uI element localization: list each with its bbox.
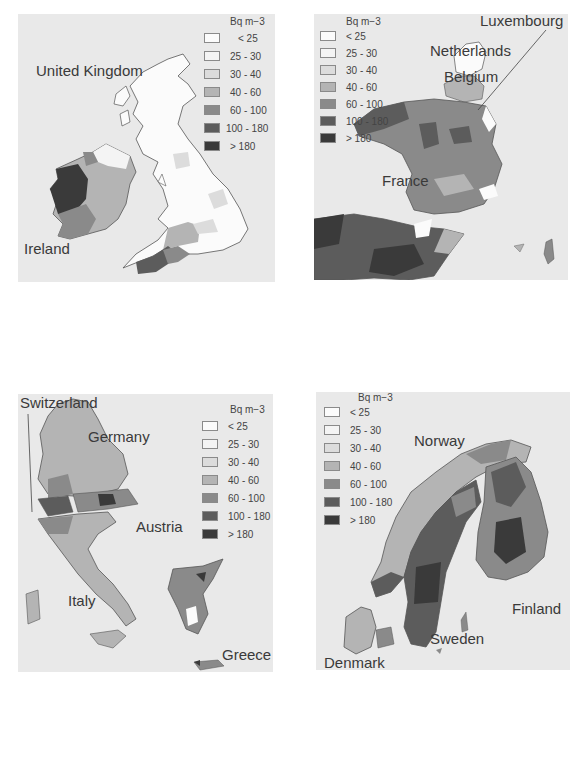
legend-row: 30 - 40: [320, 64, 377, 76]
legend-row: 40 - 60: [204, 86, 261, 98]
legend-swatch: [204, 51, 220, 61]
legend-central: Bq m−3 < 25 25 - 30 30 - 40 40 - 60 60 -…: [202, 404, 272, 534]
legend-label: 100 - 180: [226, 123, 268, 134]
label-italy: Italy: [68, 592, 96, 609]
legend-label: 60 - 100: [228, 493, 265, 504]
legend-unit: Bq m−3: [358, 392, 393, 403]
legend-row: 25 - 30: [324, 424, 381, 436]
legend-row: 25 - 30: [204, 50, 261, 62]
legend-row: 30 - 40: [204, 68, 261, 80]
legend-label: 100 - 180: [228, 511, 270, 522]
legend-label: 60 - 100: [346, 99, 383, 110]
legend-unit: Bq m−3: [230, 16, 265, 27]
legend-row: 60 - 100: [202, 492, 265, 504]
map-panel-nordic: Norway Finland Sweden Denmark Bq m−3 < 2…: [316, 392, 570, 670]
legend-row: 40 - 60: [324, 460, 381, 472]
legend-label: 30 - 40: [230, 69, 261, 80]
legend-swatch: [320, 82, 336, 92]
legend-label: 40 - 60: [350, 461, 381, 472]
legend-row: 100 - 180: [320, 115, 388, 127]
map-panel-central-southern: Switzerland Germany Austria Italy Greece…: [18, 394, 273, 672]
label-germany: Germany: [88, 428, 150, 445]
legend-row: 40 - 60: [202, 474, 259, 486]
legend-row: 60 - 100: [324, 478, 387, 490]
legend-row: 25 - 30: [202, 438, 259, 450]
legend-france: Bq m−3 < 25 25 - 30 30 - 40 40 - 60 60 -…: [320, 16, 400, 136]
legend-unit: Bq m−3: [346, 16, 381, 27]
legend-label: 100 - 180: [346, 116, 388, 127]
denmark-region: [344, 607, 376, 654]
legend-row: < 25: [202, 420, 248, 432]
legend-swatch: [202, 511, 218, 521]
legend-swatch: [320, 31, 336, 41]
legend-swatch: [204, 105, 220, 115]
legend-swatch: [204, 123, 220, 133]
legend-label: > 180: [230, 141, 255, 152]
legend-row: 60 - 100: [204, 104, 267, 116]
label-austria: Austria: [136, 518, 183, 535]
zealand-region: [376, 627, 394, 648]
legend-swatch: [324, 515, 340, 525]
legend-label: 25 - 30: [346, 48, 377, 59]
legend-row: 100 - 180: [324, 496, 392, 508]
legend-row: 100 - 180: [204, 122, 268, 134]
legend-swatch: [324, 461, 340, 471]
legend-label: 30 - 40: [346, 65, 377, 76]
legend-swatch: [320, 116, 336, 126]
legend-swatch: [324, 425, 340, 435]
legend-swatch: [324, 497, 340, 507]
north-england-region: [173, 152, 190, 169]
legend-swatch: [324, 407, 340, 417]
legend-swatch: [202, 421, 218, 431]
legend-label: > 180: [346, 133, 371, 144]
legend-label: 25 - 30: [228, 439, 259, 450]
legend-label: 60 - 100: [350, 479, 387, 490]
legend-swatch: [320, 133, 336, 143]
legend-row: < 25: [204, 32, 258, 44]
legend-swatch: [202, 439, 218, 449]
label-denmark: Denmark: [324, 654, 385, 670]
legend-swatch: [204, 141, 220, 151]
legend-label: 25 - 30: [230, 51, 261, 62]
legend-swatch: [324, 443, 340, 453]
label-finland: Finland: [512, 600, 561, 617]
legend-row: 40 - 60: [320, 81, 377, 93]
label-sweden: Sweden: [430, 630, 484, 647]
legend-row: > 180: [202, 528, 253, 540]
central-sweden-region: [414, 562, 441, 604]
label-united-kingdom: United Kingdom: [36, 62, 143, 79]
legend-label: < 25: [350, 407, 370, 418]
legend-label: 30 - 40: [350, 443, 381, 454]
label-greece: Greece: [222, 646, 271, 663]
legend-row: 60 - 100: [320, 98, 383, 110]
legend-row: 100 - 180: [202, 510, 270, 522]
legend-label: 40 - 60: [228, 475, 259, 486]
legend-label: < 25: [346, 31, 366, 42]
legend-swatch: [202, 475, 218, 485]
legend-label: < 25: [238, 33, 258, 44]
legend-row: < 25: [324, 406, 370, 418]
legend-label: 40 - 60: [346, 82, 377, 93]
label-norway: Norway: [414, 432, 465, 449]
legend-swatch: [204, 33, 220, 43]
legend-row: > 180: [324, 514, 375, 526]
legend-swatch: [320, 99, 336, 109]
legend-row: < 25: [320, 30, 366, 42]
bornholm-region: [436, 648, 442, 654]
label-switzerland: Switzerland: [20, 394, 98, 411]
legend-swatch: [320, 65, 336, 75]
legend-uk: Bq m−3 < 25 25 - 30 30 - 40 40 - 60 60 -…: [204, 16, 274, 136]
legend-nordic: Bq m−3 < 25 25 - 30 30 - 40 40 - 60 60 -…: [324, 392, 404, 522]
map-panel-france-iberia: Luxembourg Netherlands Belgium France Sp…: [314, 14, 568, 280]
legend-label: 100 - 180: [350, 497, 392, 508]
legend-row: 30 - 40: [324, 442, 381, 454]
legend-label: 40 - 60: [230, 87, 261, 98]
legend-swatch: [202, 529, 218, 539]
legend-label: 60 - 100: [230, 105, 267, 116]
map-panel-uk-ireland: United Kingdom Ireland Bq m−3 < 25 25 - …: [18, 14, 275, 282]
legend-label: < 25: [228, 421, 248, 432]
legend-row: 25 - 30: [320, 47, 377, 59]
legend-swatch: [204, 87, 220, 97]
legend-swatch: [202, 493, 218, 503]
legend-label: > 180: [228, 529, 253, 540]
